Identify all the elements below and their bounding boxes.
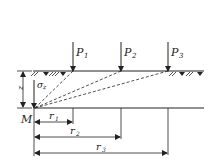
depth-label: z — [16, 85, 25, 91]
load-p2: P 2 — [121, 42, 137, 71]
load-p1-label: P — [75, 46, 84, 59]
depth-dimension: z — [16, 71, 32, 108]
load-p3-label: P — [170, 46, 179, 59]
load-p1-sub: 1 — [84, 52, 88, 60]
point-m-label: M — [20, 113, 33, 126]
stress-rays — [35, 71, 168, 108]
r2-sub: 2 — [75, 130, 80, 137]
load-p3-sub: 3 — [179, 52, 184, 60]
load-p1: P 1 — [73, 42, 88, 71]
r3-sub: 3 — [102, 146, 106, 153]
r1-sub: 1 — [55, 115, 59, 122]
load-p2-label: P — [123, 46, 132, 59]
radius-r1: r 1 — [35, 110, 72, 122]
load-p3: P 3 — [168, 42, 184, 71]
radius-r3: r 3 — [35, 141, 167, 153]
ground-triangles — [43, 72, 203, 76]
radius-r2: r 2 — [35, 125, 120, 137]
sigma-sub: z — [42, 83, 47, 90]
ground-hatch — [31, 72, 193, 76]
load-p2-sub: 2 — [131, 52, 137, 60]
point-load-diagram: P 1 P 2 P 3 σ z z M r 1 — [0, 0, 218, 167]
